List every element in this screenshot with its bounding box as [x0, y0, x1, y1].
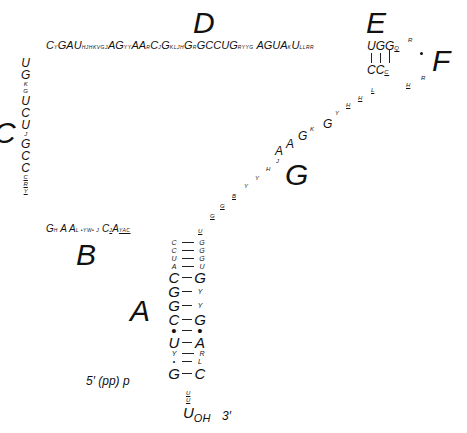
region-label-g: G [285, 160, 308, 190]
b-strand: GH A AL •YW• J CJAYAC [46, 224, 130, 234]
base-variant: HJHKVGJ [82, 44, 108, 50]
region-label-c: C [0, 118, 16, 148]
base-variant: KLJH [170, 44, 184, 50]
base-right: G [196, 239, 208, 246]
three-prime-end: UOH [183, 405, 210, 420]
bond [182, 266, 194, 267]
base: A [66, 39, 73, 51]
base-variant: RYYG [238, 44, 254, 50]
e-stem-bottom: CCC [367, 64, 389, 76]
base: G [264, 39, 273, 51]
bond [182, 319, 192, 320]
bond [182, 242, 194, 243]
b-base: G [46, 223, 54, 234]
five-prime-label: 5′ (pp) p [86, 375, 130, 387]
base: A [256, 39, 263, 51]
bond [182, 305, 192, 306]
f-loop-mark-2: R [421, 75, 425, 81]
bond [182, 361, 192, 362]
base-pair: UA [168, 335, 208, 349]
e-stem-bottom-bases: CC [367, 63, 384, 77]
g-strand-base: J [276, 158, 279, 164]
base: A [280, 39, 287, 51]
base-pair: CG [168, 246, 208, 254]
base: K [24, 81, 28, 88]
f-loop-dot [420, 52, 423, 55]
base-left: U [168, 255, 180, 262]
base: G [115, 39, 124, 51]
base-left: Y [168, 350, 180, 357]
base-right: R [196, 350, 208, 357]
base: G [21, 69, 30, 81]
region-label-d: D [193, 8, 215, 38]
base-left: C [168, 239, 180, 246]
e-stem-top-sub: Q [394, 45, 399, 51]
b-base: A [112, 223, 119, 234]
bond [182, 258, 194, 259]
bond [182, 291, 192, 292]
base: U [21, 119, 30, 131]
base-pair: YR [168, 349, 208, 357]
base: G [161, 39, 170, 51]
base-left: G [168, 366, 180, 381]
b-sub: YAC [119, 227, 131, 233]
base-right: G [196, 255, 208, 262]
bond [182, 373, 192, 374]
e-stem-top: UGGQ [367, 40, 400, 52]
bond [182, 330, 192, 331]
g-strand-base: A [275, 145, 283, 157]
base: G [229, 39, 238, 51]
f-loop-mark-3: H [406, 82, 410, 88]
base-right: L [194, 358, 206, 365]
bond [182, 353, 194, 354]
base-pair: GY [168, 284, 208, 298]
base-right: A [194, 335, 206, 350]
g-strand-base: A [286, 138, 294, 150]
g-strand-base: G [298, 130, 307, 142]
base-right: G [194, 270, 206, 285]
base-pair: GY [168, 298, 208, 312]
g-strand-base: B [232, 193, 236, 199]
base-pair: UG [168, 254, 208, 262]
g-strand-base: L [371, 87, 374, 93]
base-pair: GC [168, 366, 208, 380]
base: U [221, 39, 229, 51]
c-arm-column: UGKGUCUJGCCCRY [21, 57, 30, 195]
g-strand-base: G [220, 203, 225, 209]
e-stem-bonds [369, 53, 391, 63]
g-strand-base: U [198, 228, 202, 234]
base-right: Y [194, 302, 206, 309]
d-arm-strand: CYGAUHJHKVGJAGYYAARCJGKLJHGRGCCUGRYYG AG… [46, 40, 314, 51]
region-label-b: B [76, 240, 96, 270]
region-label-f: F [432, 46, 450, 76]
g-strand-base: H [346, 102, 350, 108]
g-strand-base: Y [335, 110, 339, 116]
tail-base-1: U [186, 390, 190, 396]
base-pair: CG [168, 238, 208, 246]
b-sub: H [54, 227, 58, 233]
base: Y [24, 188, 28, 195]
acceptor-stem: CGCGUGAUCGGYGYCG••UAYR•LGC [168, 238, 208, 380]
base-left: C [168, 247, 180, 254]
bond [182, 250, 194, 251]
base: C [24, 174, 28, 181]
three-prime-oh: OH [194, 412, 211, 424]
base: R [24, 181, 28, 188]
g-strand-base: H [266, 166, 270, 172]
base-left: U [168, 335, 180, 350]
base: U [74, 39, 82, 51]
region-label-e: E [366, 8, 386, 38]
base-right: G [196, 247, 208, 254]
g-strand-base: Y [255, 175, 259, 181]
g-strand-base: H [358, 95, 362, 101]
base: G [184, 39, 193, 51]
base: C [46, 39, 54, 51]
bond [182, 342, 192, 343]
region-label-a: A [130, 296, 150, 326]
base: C [21, 162, 30, 174]
b-base: A A [60, 223, 75, 234]
e-stem-bottom-sub: C [384, 69, 389, 75]
g-strand-base: G [210, 213, 215, 219]
base-right: Y [194, 288, 206, 295]
base: A [132, 39, 139, 51]
